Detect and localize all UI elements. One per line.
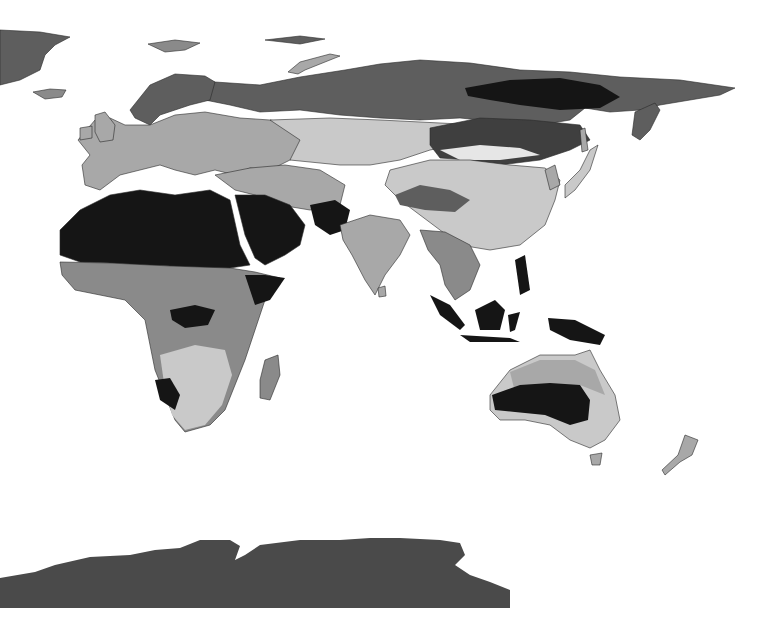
region-greenland (0, 30, 70, 85)
region-java (460, 335, 520, 342)
region-japan (565, 145, 598, 198)
world-map (0, 0, 762, 625)
region-svalbard (148, 40, 200, 52)
region-tasmania (590, 453, 602, 465)
region-britain (95, 112, 115, 142)
region-ireland (80, 126, 92, 140)
region-sumatra (430, 295, 465, 330)
region-madagascar (260, 355, 280, 400)
region-india (340, 215, 410, 295)
map-svg (0, 0, 762, 625)
region-novaya-zemlya (288, 54, 340, 74)
region-franz-josef (265, 36, 325, 44)
region-new-zealand (662, 435, 698, 475)
region-sulawesi (508, 312, 520, 332)
region-philippines (515, 255, 530, 295)
region-new-guinea (548, 318, 605, 345)
region-sahara (60, 190, 250, 268)
region-antarctica (0, 538, 510, 608)
region-sakhalin (580, 128, 588, 152)
region-iceland (33, 89, 66, 99)
region-sri-lanka (378, 286, 386, 297)
region-borneo (475, 300, 505, 330)
